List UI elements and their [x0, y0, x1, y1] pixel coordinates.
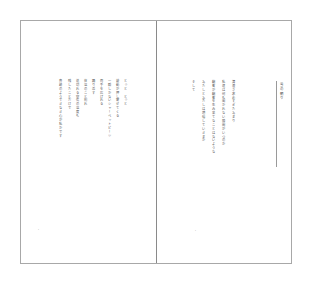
text-line: 鼓動が押し寄せてくる: [115, 79, 118, 118]
text-line: 清澄さ求めすぎたあまり: [231, 80, 234, 123]
title-rule: [276, 81, 277, 167]
text-line: 顧客が顧客を生み果てなことはないような: [211, 80, 214, 154]
text-line: 体温のこと別れ: [83, 79, 86, 106]
chapter-title: 雪の朝り: [279, 83, 284, 101]
text-line: あたしとあたしは増幅していきまか: [201, 80, 204, 142]
right-page: 雪の朝り 清澄さ求めすぎたあまり 私達は何も聞かれない隙間がいつのか 顧客が顧客…: [157, 21, 293, 263]
text-line: 私達は何も聞かれない隙間がいつのか: [221, 80, 224, 146]
page-number: ・: [37, 228, 40, 232]
text-line: 両手を広げれる: [99, 79, 102, 106]
text-line: 奇跡のようできなき心が私かです: [58, 79, 61, 138]
left-page: とっと とっと 鼓動が押し寄せてくる 一瞬しかないシャーベットビーツ 両手を広げ…: [21, 21, 156, 263]
page-number: ・: [194, 229, 197, 233]
text-line: 踊り返す: [91, 79, 94, 95]
text-line: 途切れる空気の温度も: [75, 79, 78, 118]
text-line: 一瞬しかないシャーベットビーツ: [107, 79, 110, 138]
book-spread: とっと とっと 鼓動が押し寄せてくる 一瞬しかないシャーベットビーツ 両手を広げ…: [20, 20, 292, 264]
text-line: 残したことだけで: [67, 79, 70, 110]
text-line: そして: [191, 80, 194, 92]
text-line: とっと とっと: [123, 79, 126, 106]
